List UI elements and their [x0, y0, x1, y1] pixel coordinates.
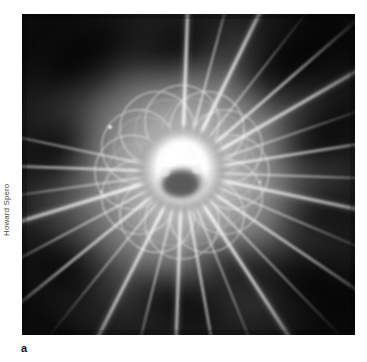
figure-panel-a: Howard Spero a: [0, 0, 367, 362]
film-grain: [22, 14, 355, 335]
micrograph-photo: [22, 14, 355, 335]
photo-credit: Howard Spero: [0, 142, 14, 238]
photo-credit-text: Howard Spero: [2, 184, 12, 238]
micrograph-canvas: [22, 14, 355, 335]
panel-label-a: a: [21, 342, 27, 354]
